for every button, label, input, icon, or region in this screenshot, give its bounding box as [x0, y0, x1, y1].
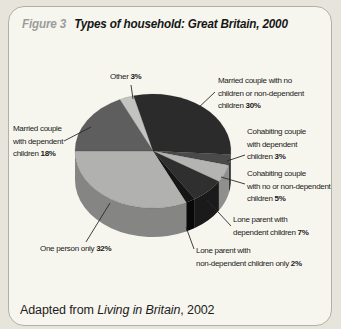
- slice-percent-lone-parent-non-dependent: 2%: [291, 259, 302, 268]
- slice-label-one-person: One person only 32%: [40, 243, 111, 256]
- slice-lone-parent-non-dependent-side: [186, 199, 195, 232]
- source-note-prefix: Adapted from: [20, 303, 97, 317]
- slice-label-lone-parent-dependent: Lone parent withdependent children 7%: [233, 214, 309, 239]
- slice-label-married-dependent: Married couplewith dependentchildren 18%: [13, 123, 63, 161]
- pie-chart-3d: [0, 0, 341, 329]
- slice-label-other: Other 3%: [110, 71, 141, 84]
- source-note-suffix: , 2002: [180, 303, 214, 317]
- slice-percent-cohabiting-dependent: 3%: [275, 152, 286, 161]
- leader-lone-parent-non-dependent: [186, 227, 194, 249]
- slice-label-cohabiting-dependent: Cohabiting couplewith dependentchildren …: [247, 126, 306, 164]
- slice-label-married-no-children: Married couple with nochildren or non-de…: [218, 75, 304, 113]
- source-note-title: Living in Britain: [97, 303, 180, 317]
- source-note: Adapted from Living in Britain, 2002: [20, 303, 214, 317]
- slice-percent-lone-parent-dependent: 7%: [298, 228, 309, 237]
- slice-percent-one-person: 32%: [96, 244, 111, 253]
- slice-label-cohabiting-non-dependent: Cohabiting couplewith no or non-dependen…: [247, 168, 331, 206]
- slice-percent-married-no-children: 30%: [246, 101, 261, 110]
- slice-percent-cohabiting-non-dependent: 5%: [275, 194, 286, 203]
- leader-married-no-children: [196, 92, 215, 110]
- slice-label-lone-parent-non-dependent: Lone parent withnon-dependent children o…: [196, 245, 302, 270]
- slice-percent-married-dependent: 18%: [41, 149, 56, 158]
- slice-percent-other: 3%: [130, 72, 141, 81]
